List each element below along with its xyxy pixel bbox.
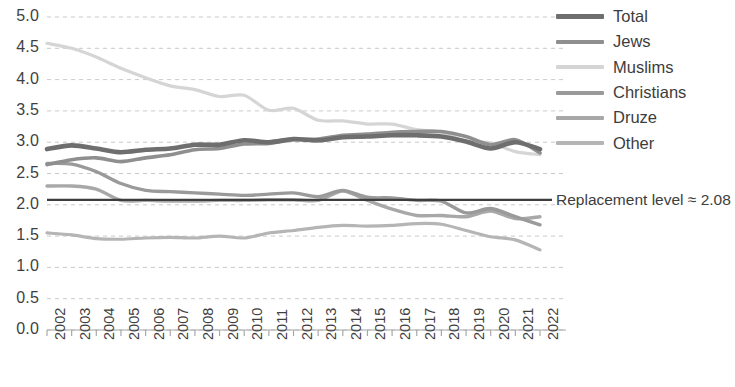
x-axis-tick-label: 2006 [152,308,166,340]
x-axis-tick-label: 2009 [226,308,240,340]
legend-label: Druze [613,109,657,126]
legend-swatch-icon [556,40,604,44]
x-axis-tick-label: 2002 [53,308,67,340]
y-axis-tick-label: 0.0 [1,321,39,337]
legend-label: Jews [613,33,651,50]
legend-item-muslims[interactable]: Muslims [556,55,735,80]
x-axis-tick-label: 2019 [472,308,486,340]
x-axis-tick-label: 2015 [373,308,387,340]
y-axis-tick-label: 5.0 [1,8,39,24]
legend-item-total[interactable]: Total [556,4,735,29]
legend-label: Total [613,8,648,25]
x-axis-tick-label: 2014 [349,308,363,340]
y-axis-tick-label: 4.0 [1,71,39,87]
y-axis-tick-label: 0.5 [1,290,39,306]
x-axis-tick-label: 2016 [398,308,412,340]
series-line-jews [47,131,540,165]
legend-item-jews[interactable]: Jews [556,29,735,54]
legend-item-christians[interactable]: Christians [556,80,735,105]
x-axis-tick-label: 2020 [497,308,511,340]
x-axis-tick-label: 2003 [78,308,92,340]
x-axis-tick-label: 2004 [102,308,116,340]
x-axis-tick-label: 2010 [250,308,264,340]
x-axis-tick-label: 2018 [447,308,461,340]
gridlines [47,17,566,330]
legend-swatch-icon [556,141,604,145]
x-axis-tick-label: 2005 [127,308,141,340]
replacement-level-label: Replacement level ≈ 2.08 [556,191,731,208]
legend-swatch-icon [556,116,604,120]
y-axis-tick-label: 3.0 [1,133,39,149]
x-axis-tick-label: 2017 [423,308,437,340]
x-axis-tick-label: 2008 [201,308,215,340]
legend-label: Christians [613,84,686,101]
data-series [47,43,540,250]
x-axis-tick-label: 2007 [176,308,190,340]
fertility-rate-line-chart: 5.04.54.03.53.02.52.01.51.00.50.0 200220… [0,0,735,387]
x-axis-tick-label: 2022 [546,308,560,340]
series-line-other [47,223,540,249]
y-axis-tick-label: 1.0 [1,258,39,274]
legend-swatch-icon [556,91,604,95]
x-axis-tick-label: 2013 [324,308,338,340]
legend-item-other[interactable]: Other [556,130,735,155]
x-axis-tick-label: 2021 [521,308,535,340]
y-axis-tick-label: 2.5 [1,165,39,181]
legend-label: Other [613,135,654,152]
legend-swatch-icon [556,65,604,69]
legend-swatch-icon [556,14,604,19]
y-axis-tick-label: 3.5 [1,102,39,118]
y-axis-tick-label: 1.5 [1,227,39,243]
x-axis-tick-label: 2012 [300,308,314,340]
y-axis-tick-label: 4.5 [1,39,39,55]
legend-item-druze[interactable]: Druze [556,105,735,130]
legend-label: Muslims [613,59,674,76]
chart-legend: TotalJewsMuslimsChristiansDruzeOther [556,4,735,156]
x-axis-tick-label: 2011 [275,309,289,340]
y-axis-tick-label: 2.0 [1,196,39,212]
